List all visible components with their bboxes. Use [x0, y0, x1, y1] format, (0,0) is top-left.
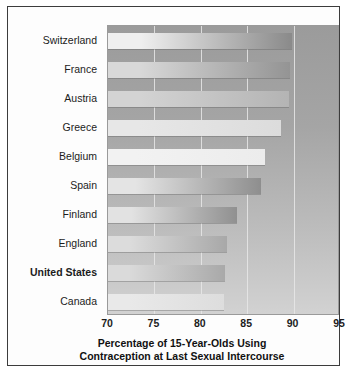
- y-label-belgium: Belgium: [59, 150, 97, 162]
- y-label-canada: Canada: [60, 295, 97, 307]
- bar-row: [108, 200, 338, 229]
- x-tick-95: 95: [333, 317, 345, 329]
- bar-row: [108, 171, 338, 200]
- y-label-switzerland: Switzerland: [43, 34, 97, 46]
- bar-row: [108, 287, 338, 315]
- bar-row: [108, 84, 338, 113]
- x-axis-title-line-2: Contraception at Last Sexual Intercourse: [24, 350, 340, 363]
- bar-england: [108, 236, 227, 252]
- y-label-france: France: [64, 63, 97, 75]
- bar-spain: [108, 178, 261, 194]
- x-tick-90: 90: [287, 317, 299, 329]
- x-tick-85: 85: [240, 317, 252, 329]
- bar-series: [108, 26, 338, 314]
- y-label-austria: Austria: [64, 92, 97, 104]
- bar-canada: [108, 294, 224, 310]
- bar-greece: [108, 120, 281, 136]
- y-axis-category-labels: SwitzerlandFranceAustriaGreeceBelgiumSpa…: [8, 25, 103, 315]
- x-axis-title: Percentage of 15-Year-Olds Using Contrac…: [24, 337, 340, 363]
- y-label-finland: Finland: [63, 208, 97, 220]
- y-label-united-states: United States: [30, 266, 97, 278]
- y-label-england: England: [58, 237, 97, 249]
- x-tick-80: 80: [194, 317, 206, 329]
- bar-united-states: [108, 265, 225, 281]
- bar-row: [108, 26, 338, 55]
- x-tick-75: 75: [148, 317, 160, 329]
- bar-belgium: [108, 149, 265, 165]
- bar-row: [108, 229, 338, 258]
- bar-austria: [108, 91, 289, 107]
- y-label-spain: Spain: [70, 179, 97, 191]
- chart-card-frame: SwitzerlandFranceAustriaGreeceBelgiumSpa…: [7, 6, 340, 366]
- bar-finland: [108, 207, 237, 223]
- chart-figure: SwitzerlandFranceAustriaGreeceBelgiumSpa…: [0, 0, 349, 374]
- bar-france: [108, 62, 290, 78]
- x-tick-70: 70: [101, 317, 113, 329]
- y-label-greece: Greece: [63, 121, 97, 133]
- bar-row: [108, 258, 338, 287]
- bar-switzerland: [108, 33, 292, 49]
- plot-area: [107, 25, 339, 315]
- bar-row: [108, 142, 338, 171]
- bar-row: [108, 113, 338, 142]
- bar-row: [108, 55, 338, 84]
- x-axis-title-line-1: Percentage of 15-Year-Olds Using: [98, 337, 267, 349]
- x-axis-tick-labels: 707580859095: [107, 317, 339, 331]
